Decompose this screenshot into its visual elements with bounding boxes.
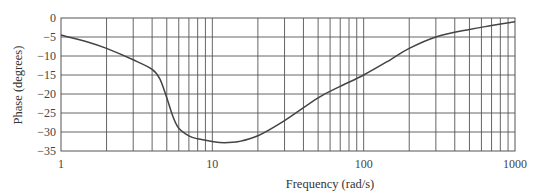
x-tick-labels: 1101001000 bbox=[58, 157, 527, 171]
y-tick-label: −20 bbox=[37, 87, 56, 101]
phase-curve bbox=[61, 22, 515, 143]
phase-chart: 0−5−10−15−20−25−30−35 1101001000 Frequen… bbox=[0, 0, 543, 195]
y-tick-label: −30 bbox=[37, 125, 56, 139]
x-tick-label: 1000 bbox=[503, 157, 527, 171]
y-tick-labels: 0−5−10−15−20−25−30−35 bbox=[37, 11, 56, 158]
y-tick-label: −35 bbox=[37, 144, 56, 158]
grid-lines bbox=[61, 18, 515, 151]
x-axis-label: Frequency (rad/s) bbox=[286, 177, 375, 191]
y-tick-label: 0 bbox=[50, 11, 56, 25]
y-tick-label: −10 bbox=[37, 49, 56, 63]
x-tick-label: 100 bbox=[355, 157, 373, 171]
y-tick-label: −25 bbox=[37, 106, 56, 120]
plot-frame bbox=[61, 18, 515, 151]
y-tick-label: −15 bbox=[37, 68, 56, 82]
x-tick-label: 10 bbox=[206, 157, 218, 171]
y-tick-label: −5 bbox=[43, 30, 56, 44]
y-axis-label: Phase (degrees) bbox=[11, 46, 25, 125]
x-tick-label: 1 bbox=[58, 157, 64, 171]
